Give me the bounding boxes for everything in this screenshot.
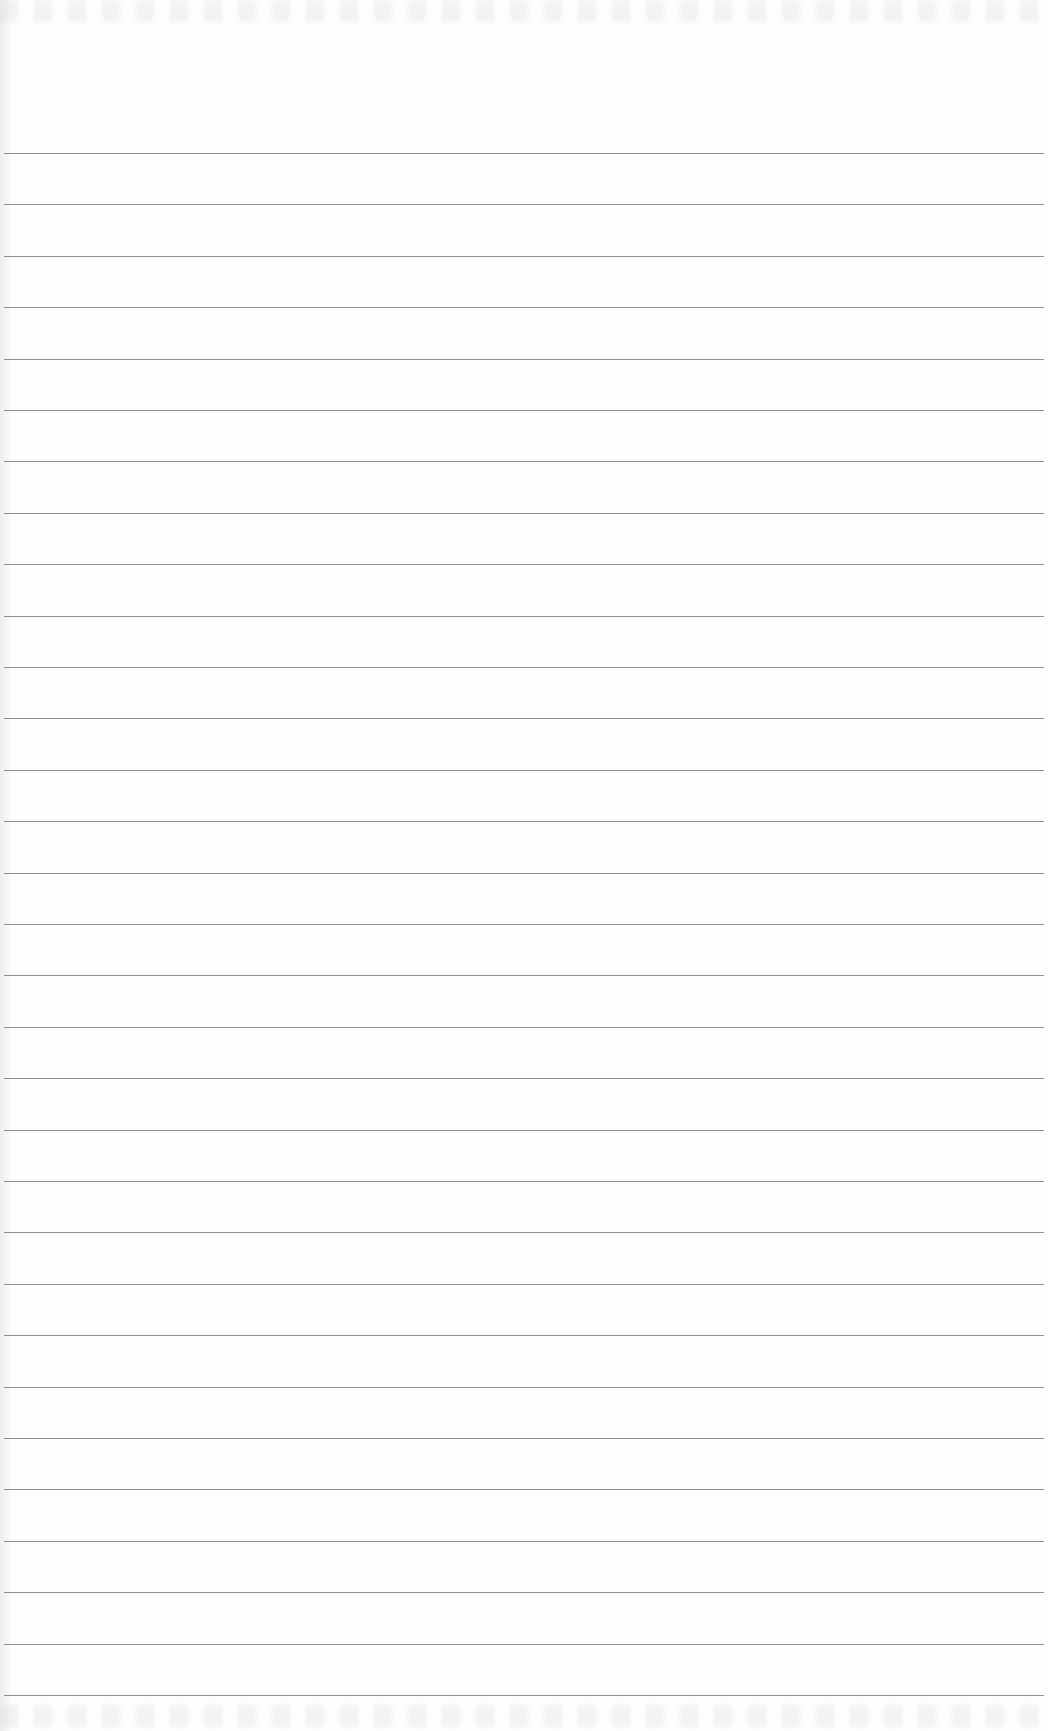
ruled-line: [4, 359, 1044, 361]
ruled-line: [4, 1335, 1044, 1337]
ruled-line: [4, 873, 1044, 875]
ruled-line: [4, 1541, 1044, 1543]
ruled-line: [4, 1695, 1044, 1697]
ruled-line: [4, 1027, 1044, 1029]
ruled-line: [4, 924, 1044, 926]
ruled-line: [4, 1130, 1044, 1132]
ruled-line: [4, 1181, 1044, 1183]
ruled-line: [4, 975, 1044, 977]
bleed-through-top: [0, 0, 1048, 22]
ruled-line: [4, 513, 1044, 515]
page-edge-shadow: [0, 0, 12, 1731]
bleed-through-bottom: [0, 1705, 1048, 1727]
ruled-line: [4, 307, 1044, 309]
ruled-line: [4, 1644, 1044, 1646]
ruled-line: [4, 1232, 1044, 1234]
ruled-line: [4, 1284, 1044, 1286]
ruled-line: [4, 821, 1044, 823]
ruled-line: [4, 1078, 1044, 1080]
ruled-line: [4, 770, 1044, 772]
ruled-line: [4, 667, 1044, 669]
ruled-line: [4, 256, 1044, 258]
ruled-line: [4, 1592, 1044, 1594]
ruled-line: [4, 718, 1044, 720]
ruled-line: [4, 1489, 1044, 1491]
ruled-line: [4, 204, 1044, 206]
ruled-line: [4, 410, 1044, 412]
ruled-line: [4, 461, 1044, 463]
ruled-line: [4, 616, 1044, 618]
ruled-line: [4, 564, 1044, 566]
ruled-line: [4, 153, 1044, 155]
ruled-paper-page: [0, 0, 1048, 1731]
ruled-line: [4, 1438, 1044, 1440]
ruled-line: [4, 1387, 1044, 1389]
